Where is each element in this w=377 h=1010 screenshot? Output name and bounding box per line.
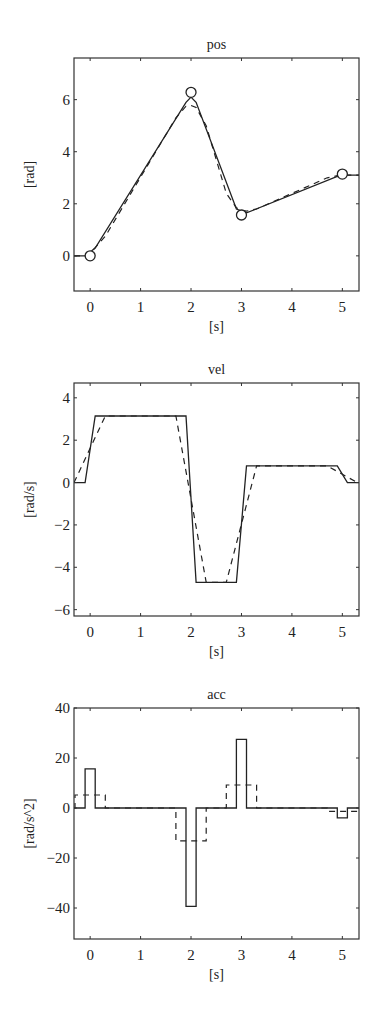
subplot-pos: pos [rad] [s] 0123450246 — [22, 37, 359, 334]
x-tick-label: 1 — [137, 299, 145, 315]
subplot-title: pos — [207, 37, 226, 52]
x-tick-label: 4 — [288, 947, 296, 963]
y-tick-label: 40 — [55, 700, 70, 716]
x-tick-label: 2 — [187, 624, 195, 640]
x-tick-label: 2 — [187, 299, 195, 315]
y-tick-label: −40 — [47, 900, 70, 916]
y-axis-label: [rad] — [22, 161, 37, 188]
x-tick-label: 4 — [288, 624, 296, 640]
x-tick-label: 5 — [339, 299, 347, 315]
x-tick-label: 5 — [339, 947, 347, 963]
y-axis-label: [rad/s^2] — [22, 798, 37, 848]
y-tick-label: 2 — [63, 432, 71, 448]
dashed-line — [74, 105, 359, 256]
y-tick-label: −2 — [54, 517, 70, 533]
subplot-vel: vel [rad/s] [s] 012345−6−4−2024 — [22, 362, 359, 659]
x-tick-label: 2 — [187, 947, 195, 963]
y-tick-label: 2 — [63, 196, 71, 212]
plot-area — [74, 97, 359, 256]
x-tick-label: 1 — [137, 947, 145, 963]
circle-marker — [85, 251, 95, 261]
x-axis-label: [s] — [209, 319, 224, 334]
x-axis-label: [s] — [209, 644, 224, 659]
figure: pos [rad] [s] 0123450246 vel [rad/s] [s]… — [0, 0, 377, 1010]
x-axis-label: [s] — [209, 967, 224, 982]
circle-marker — [236, 210, 246, 220]
y-tick-label: −20 — [47, 850, 70, 866]
circle-marker — [337, 169, 347, 179]
plot-area — [74, 416, 359, 582]
x-tick-label: 0 — [86, 624, 94, 640]
subplot-acc: acc [rad/s^2] [s] 012345−40−2002040 — [22, 687, 359, 982]
subplot-title: vel — [208, 362, 225, 377]
axes-box — [74, 708, 359, 939]
dashed-line — [74, 416, 358, 582]
axes-box — [74, 58, 359, 291]
y-tick-label: 0 — [63, 248, 71, 264]
y-tick-label: 4 — [63, 144, 71, 160]
y-tick-label: 0 — [63, 800, 71, 816]
y-tick-label: −6 — [54, 602, 70, 618]
y-tick-label: −4 — [54, 559, 70, 575]
x-tick-label: 4 — [288, 299, 296, 315]
x-tick-label: 3 — [238, 299, 246, 315]
x-tick-label: 1 — [137, 624, 145, 640]
y-tick-label: 20 — [55, 750, 70, 766]
solid-line — [74, 416, 359, 582]
x-tick-label: 0 — [86, 299, 94, 315]
plot-area — [74, 739, 359, 906]
x-tick-label: 3 — [238, 947, 246, 963]
x-tick-label: 0 — [86, 947, 94, 963]
y-tick-label: 0 — [63, 475, 71, 491]
axes-box — [74, 383, 359, 616]
dashed-line — [74, 785, 359, 841]
y-tick-label: 4 — [63, 390, 71, 406]
y-tick-label: 6 — [63, 92, 71, 108]
subplot-title: acc — [207, 687, 226, 702]
x-tick-label: 5 — [339, 624, 347, 640]
circle-marker — [186, 87, 196, 97]
x-tick-label: 3 — [238, 624, 246, 640]
solid-line — [74, 739, 359, 906]
y-axis-label: [rad/s] — [22, 481, 37, 518]
solid-line — [74, 97, 359, 256]
